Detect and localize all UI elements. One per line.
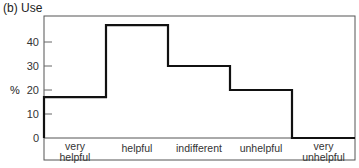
y-tick-label: 40	[27, 36, 39, 48]
y-tick-label: 30	[27, 60, 39, 72]
y-tick-label: 10	[27, 108, 39, 120]
y-tick-label: 0	[33, 132, 39, 144]
histogram-outline	[44, 25, 355, 138]
category-label: unhelpful	[240, 142, 283, 154]
category-label: helpful	[60, 151, 91, 163]
step-histogram: 010203040veryhelpfulhelpfulindifferentun…	[0, 0, 359, 168]
category-label: indifferent	[176, 142, 222, 154]
y-tick-label: 20	[27, 84, 39, 96]
category-label: unhelpful	[302, 151, 345, 163]
category-label: helpful	[122, 142, 153, 154]
